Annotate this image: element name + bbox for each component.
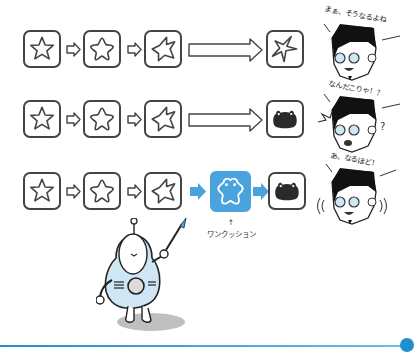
frog-blob-icon (270, 174, 304, 208)
small-arrow-icon (127, 112, 142, 127)
warped-star-icon (146, 32, 180, 66)
intermediate-frog-star-box (210, 171, 251, 212)
step-star-box (23, 100, 61, 138)
small-arrow-icon (66, 42, 81, 57)
step-warped-star-box (144, 172, 182, 210)
rounded-star-icon (85, 32, 119, 66)
bottom-divider-line (0, 345, 404, 347)
small-arrow-icon (66, 112, 81, 127)
one-cushion-caption: ワンクッション (200, 228, 262, 239)
step-warped-star-box (144, 30, 182, 68)
step-rounded-star-box (83, 100, 121, 138)
caption-arrow: ↑ (218, 218, 244, 227)
step-warped-star-box (144, 100, 182, 138)
small-arrow-icon (127, 42, 142, 57)
robot-character-icon (96, 218, 206, 334)
page-marker-dot (400, 338, 414, 352)
warped-star-icon (146, 174, 180, 208)
long-arrow-icon (188, 38, 264, 62)
step-star-box (23, 30, 61, 68)
sharp-star-icon (268, 32, 302, 66)
step-star-box (23, 172, 61, 210)
step-rounded-star-box (83, 30, 121, 68)
star-icon (25, 102, 59, 136)
frog-star-outline-icon (212, 173, 249, 210)
rounded-star-icon (85, 102, 119, 136)
small-arrow-icon (66, 184, 81, 199)
svg-text:?: ? (380, 121, 385, 132)
man-face-confused-icon: ? (310, 90, 410, 154)
frog-blob-icon (268, 102, 302, 136)
step-rounded-star-box (83, 172, 121, 210)
warped-star-icon (146, 102, 180, 136)
result-sharp-star-box (266, 30, 304, 68)
man-face-calm-icon (310, 18, 410, 82)
long-arrow-icon (188, 108, 264, 132)
small-arrow-icon (127, 184, 142, 199)
blue-arrow-icon (189, 183, 207, 200)
rounded-star-icon (85, 174, 119, 208)
man-face-understanding-icon (310, 162, 410, 226)
star-icon (25, 32, 59, 66)
result-frog-box (268, 172, 306, 210)
result-frog-box (266, 100, 304, 138)
star-icon (25, 174, 59, 208)
